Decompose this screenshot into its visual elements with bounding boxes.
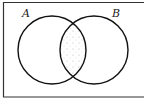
set-a-label: A (21, 7, 30, 20)
venn-diagram: A B (0, 0, 144, 105)
set-b-label: B (111, 7, 120, 20)
